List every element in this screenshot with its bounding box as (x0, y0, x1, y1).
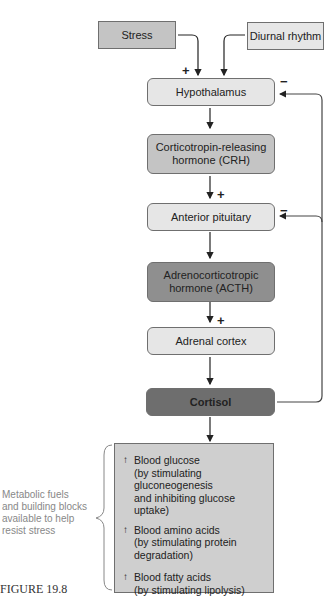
acth-label-line1: Adrenocorticotropic (164, 269, 259, 282)
effect-detail: (by stimulating lipolysis) (134, 584, 265, 597)
up-arrow-icon: ↑ (123, 524, 128, 537)
crh-plus-sign: + (217, 188, 225, 201)
up-arrow-icon: ↑ (123, 571, 128, 584)
effect-detail: (by stimulating protein degradation) (134, 536, 265, 561)
effect-detail: (by stimulating gluconeogenesis (134, 467, 265, 492)
effect-blood-amino-acids: ↑ Blood amino acids (by stimulating prot… (123, 524, 265, 562)
side-annotation: Metabolic fuels and building blocks avai… (2, 489, 94, 537)
crh-box: Corticotropin-releasing hormone (CRH) (147, 134, 275, 174)
adrenal-cortex-box: Adrenal cortex (147, 327, 275, 355)
stress-label: Stress (121, 29, 152, 42)
hypothalamus-box: Hypothalamus (147, 78, 275, 106)
effect-detail: and inhibiting glucose uptake) (134, 492, 265, 517)
crh-label-line1: Corticotropin-releasing (156, 141, 267, 154)
pituitary-minus-sign: − (280, 204, 288, 217)
effect-title: Blood glucose (134, 454, 265, 467)
stress-plus-sign: + (182, 64, 190, 77)
acth-plus-sign: + (217, 314, 225, 327)
side-annotation-line: Metabolic fuels (2, 489, 94, 501)
diurnal-rhythm-label: Diurnal rhythm (250, 30, 322, 43)
acth-box: Adrenocorticotropic hormone (ACTH) (147, 262, 275, 302)
hypothalamus-label: Hypothalamus (176, 86, 246, 99)
cortisol-label: Cortisol (190, 396, 232, 409)
effect-title: Blood amino acids (134, 524, 265, 537)
hypothalamus-minus-sign: − (280, 75, 288, 88)
figure-caption: FIGURE 19.8 (0, 582, 67, 597)
effect-blood-glucose: ↑ Blood glucose (by stimulating gluconeo… (123, 454, 265, 517)
anterior-pituitary-label: Anterior pituitary (171, 211, 251, 224)
side-annotation-line: and building blocks (2, 501, 94, 513)
up-arrow-icon: ↑ (123, 454, 128, 467)
effect-blood-fatty-acids: ↑ Blood fatty acids (by stimulating lipo… (123, 571, 265, 596)
adrenal-cortex-label: Adrenal cortex (176, 335, 247, 348)
metabolic-effects-box: ↑ Blood glucose (by stimulating gluconeo… (114, 443, 274, 593)
effect-title: Blood fatty acids (134, 571, 265, 584)
cortisol-box: Cortisol (146, 388, 275, 416)
crh-label-line2: hormone (CRH) (172, 154, 250, 167)
side-annotation-line: resist stress (2, 525, 94, 537)
acth-label-line2: hormone (ACTH) (169, 282, 253, 295)
diurnal-rhythm-box: Diurnal rhythm (247, 22, 324, 50)
stress-box: Stress (98, 21, 176, 49)
side-annotation-line: available to help (2, 513, 94, 525)
anterior-pituitary-box: Anterior pituitary (147, 203, 275, 231)
